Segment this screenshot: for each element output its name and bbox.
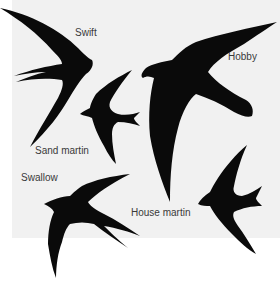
label-sand-martin: Sand martin [35,146,89,156]
label-house-martin: House martin [131,208,190,218]
house-martin-silhouette [198,145,262,254]
swallow-silhouette [44,174,140,278]
bird-silhouettes-figure: Swift Hobby Sand martin Swallow House ma… [0,0,280,287]
label-hobby: Hobby [228,52,257,62]
label-swallow: Swallow [21,173,58,183]
hobby-silhouette [142,22,277,202]
sand-martin-silhouette [80,70,140,164]
silhouettes [0,0,280,287]
label-swift: Swift [75,28,97,38]
